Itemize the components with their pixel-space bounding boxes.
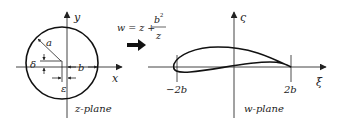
y-axis-label: y	[73, 11, 81, 24]
formula-denominator: z	[155, 30, 162, 41]
varsigma-axis-label: ς	[240, 11, 247, 24]
w-plane-panel: ς ξ −2b 2b w-plane	[148, 11, 326, 118]
z-plane-label: z-plane	[74, 103, 112, 114]
w-plane-label: w-plane	[244, 103, 284, 114]
formula-lhs: w = z +	[117, 22, 155, 33]
formula-exponent: 2	[160, 11, 163, 18]
delta-label: δ	[30, 59, 36, 70]
joukowski-diagram: y x a δ ε b z-plane w = z + b 2 z	[0, 0, 342, 125]
b-label: b	[78, 62, 84, 73]
tick-label-minus-2b: −2b	[166, 84, 187, 95]
xi-axis-label: ξ	[316, 76, 323, 89]
tick-label-2b: 2b	[283, 84, 297, 95]
x-axis-label: x	[112, 72, 119, 85]
radius-label: a	[46, 37, 52, 48]
airfoil	[174, 47, 291, 72]
mapping-arrow-icon	[127, 39, 146, 51]
z-plane-panel: y x a δ ε b z-plane	[16, 11, 122, 118]
epsilon-label: ε	[61, 83, 66, 94]
transform-formula: w = z + b 2 z	[117, 11, 166, 51]
